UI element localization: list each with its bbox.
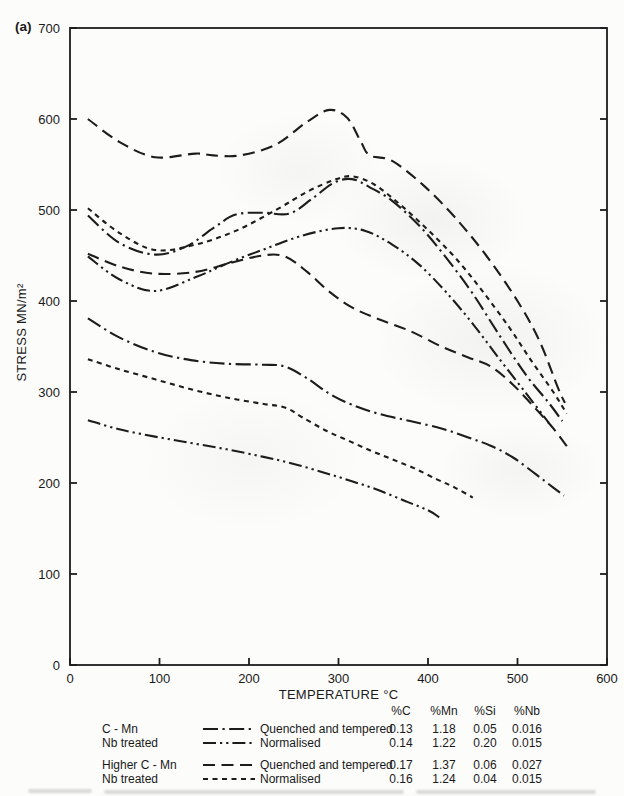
y-tick-label: 400 [38,294,60,309]
y-tick-label: 300 [38,385,60,400]
x-tick-label: 200 [238,671,260,686]
legend: %C %Mn %Si %Nb C - Mn Quenched and tempe… [102,704,550,786]
legend-value-si: 0.20 [466,736,504,750]
legend-material: Nb treated [102,736,202,750]
long-dash-line-sample [202,760,260,770]
figure-page: 0100200300400500600700010020030040050060… [0,0,624,796]
legend-value-mn: 1.22 [422,736,466,750]
legend-value-nb: 0.027 [504,758,550,772]
legend-header-si: %Si [466,704,504,718]
x-tick-label: 500 [507,671,529,686]
legend-value-si: 0.05 [466,722,504,736]
legend-material: Higher C - Mn [102,758,202,772]
dash-dot-dot-line-sample [202,738,260,748]
legend-condition: Normalised [260,736,380,750]
curve-c-mn-quenched-tempered-upper [88,179,562,421]
x-tick-label: 400 [417,671,439,686]
panel-label: (a) [15,19,32,34]
legend-header-c: %C [380,704,422,718]
legend-header-mn: %Mn [422,704,466,718]
y-tick-label: 600 [38,112,60,127]
legend-material: Nb treated [102,772,202,786]
legend-material: C - Mn [102,722,202,736]
x-tick-label: 300 [328,671,350,686]
curve-higher-c-mn-quenched-tempered-upper [88,110,565,403]
x-tick-label: 600 [596,671,618,686]
legend-value-mn: 1.24 [422,772,466,786]
curve-c-mn-quenched-tempered-lower [88,318,564,495]
y-tick-label: 0 [53,658,60,673]
y-tick-label: 200 [38,476,60,491]
legend-value-c: 0.14 [380,736,422,750]
legend-condition: Normalised [260,772,380,786]
legend-value-mn: 1.37 [422,758,466,772]
legend-row-higher-c-mn-qt: Higher C - Mn Quenched and tempered 0.17… [102,758,550,772]
legend-row-c-mn-qt: C - Mn Quenched and tempered 0.13 1.18 0… [102,722,550,736]
x-tick-label: 0 [66,671,73,686]
legend-value-c: 0.17 [380,758,422,772]
curve-nb-treated-normalised-second-lower [88,420,440,517]
legend-value-si: 0.04 [466,772,504,786]
legend-value-c: 0.16 [380,772,422,786]
short-dash-line-sample [202,774,260,784]
x-axis-title: TEMPERATURE °C [70,687,607,702]
legend-header-row: %C %Mn %Si %Nb [102,704,550,718]
y-axis-title: STRESS MN/m² [14,178,29,488]
y-tick-label: 500 [38,203,60,218]
curve-nb-treated-normalised-second-upper [88,228,549,423]
legend-value-nb: 0.015 [504,772,550,786]
legend-row-nb-normalised-2: Nb treated Normalised 0.16 1.24 0.04 0.0… [102,772,550,786]
legend-value-si: 0.06 [466,758,504,772]
legend-header-nb: %Nb [504,704,550,718]
y-tick-label: 700 [38,21,60,36]
legend-value-nb: 0.015 [504,736,550,750]
legend-value-mn: 1.18 [422,722,466,736]
stress-temperature-chart: 0100200300400500600700010020030040050060… [0,0,624,700]
curve-higher-c-mn-quenched-tempered-lower [88,254,569,449]
legend-value-c: 0.13 [380,722,422,736]
x-tick-label: 100 [149,671,171,686]
curve-nb-treated-normalised-lower [88,359,473,497]
cropped-caption-smear [0,788,624,796]
curve-nb-treated-normalised-upper [88,176,567,414]
legend-row-nb-normalised: Nb treated Normalised 0.14 1.22 0.20 0.0… [102,736,550,750]
y-tick-label: 100 [38,567,60,582]
legend-value-nb: 0.016 [504,722,550,736]
plot-frame [70,28,607,665]
legend-condition: Quenched and tempered [260,722,380,736]
legend-condition: Quenched and tempered [260,758,380,772]
dash-dot-line-sample [202,724,260,734]
